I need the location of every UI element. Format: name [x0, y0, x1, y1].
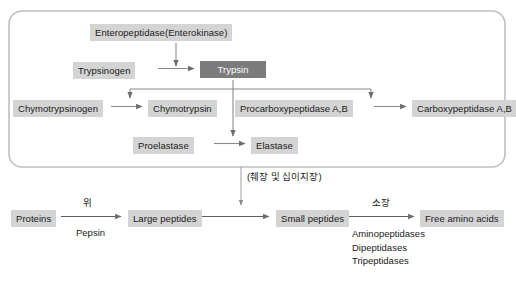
step3-organ-small-intestine: 소장 [372, 196, 390, 209]
step3-enzyme-dipeptidases: Dipeptidases [352, 241, 425, 255]
node-proelastase[interactable]: Proelastase [133, 137, 194, 154]
node-carboxypeptidase[interactable]: Carboxypeptidase A,B [412, 100, 516, 117]
step3-enzyme-list: Aminopeptidases Dipeptidases Tripeptidas… [352, 227, 425, 268]
node-proteins-label: Proteins [16, 213, 51, 224]
node-carboxypeptidase-label: Carboxypeptidase A,B [417, 103, 512, 114]
node-small-peptides[interactable]: Small peptides [276, 210, 349, 227]
node-procarboxypeptidase-label: Procarboxypeptidase A,B [240, 103, 348, 114]
step3-enzyme-tripeptidases: Tripeptidases [352, 254, 425, 268]
organ-annotation-pancreas-duodenum: (췌장 및 십이지장) [247, 170, 322, 183]
node-chymotrypsinogen-label: Chymotrypsinogen [18, 103, 98, 114]
node-trypsinogen-label: Trypsinogen [78, 65, 130, 76]
node-proteins[interactable]: Proteins [11, 210, 56, 227]
node-enteropeptidase-label: Enteropeptidase(Enterokinase) [95, 27, 227, 38]
organ-annotation-label: (췌장 및 십이지장) [247, 171, 322, 182]
node-large-peptides[interactable]: Large peptides [128, 210, 202, 227]
step1-organ-label: 위 [83, 197, 92, 208]
node-trypsinogen[interactable]: Trypsinogen [73, 62, 135, 79]
step1-enzyme-label: Pepsin [76, 227, 105, 238]
diagram-canvas: Enteropeptidase(Enterokinase) Trypsinoge… [0, 0, 516, 283]
node-chymotrypsinogen[interactable]: Chymotrypsinogen [13, 100, 103, 117]
node-large-peptides-label: Large peptides [133, 213, 197, 224]
node-small-peptides-label: Small peptides [281, 213, 344, 224]
step3-organ-label: 소장 [372, 197, 390, 208]
node-elastase-label: Elastase [256, 140, 293, 151]
node-procarboxypeptidase[interactable]: Procarboxypeptidase A,B [235, 100, 353, 117]
node-chymotrypsin-label: Chymotrypsin [153, 103, 212, 114]
step1-organ-stomach: 위 [83, 196, 92, 209]
node-chymotrypsin[interactable]: Chymotrypsin [148, 100, 217, 117]
node-trypsin[interactable]: Trypsin [200, 61, 266, 78]
node-enteropeptidase[interactable]: Enteropeptidase(Enterokinase) [90, 24, 232, 41]
node-free-amino-acids[interactable]: Free amino acids [420, 210, 504, 227]
node-elastase[interactable]: Elastase [251, 137, 298, 154]
node-trypsin-label: Trypsin [217, 64, 248, 75]
step1-enzyme-pepsin: Pepsin [76, 226, 105, 239]
step3-enzyme-aminopeptidases: Aminopeptidases [352, 227, 425, 241]
node-proelastase-label: Proelastase [138, 140, 189, 151]
node-free-amino-acids-label: Free amino acids [425, 213, 499, 224]
